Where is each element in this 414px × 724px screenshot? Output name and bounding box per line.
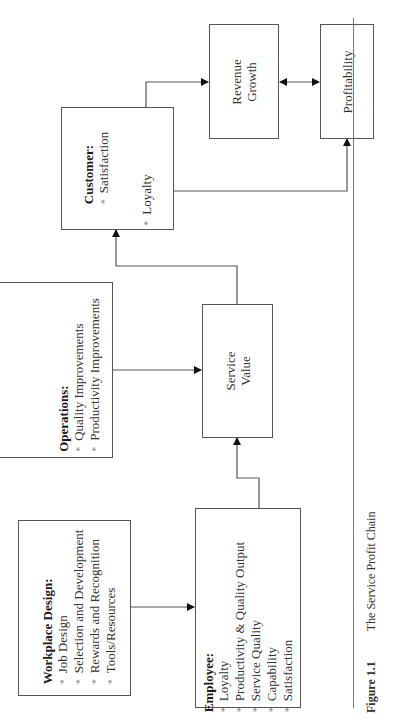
service-value-box: Service Value [202,304,273,438]
customer-item-satisfaction: *Satisfaction [96,132,112,204]
figure-caption: Figure 1.1The Service Profit Chain [364,512,379,713]
operations-item: *Quality Improvements [71,298,87,452]
employee-item: *Satisfaction [280,542,296,712]
revenue-growth-box: Revenue Growth [209,24,279,139]
operations-title: Operations: [56,298,71,452]
service-value-label: Service Value [223,352,253,391]
arrow-loyalty-to-profitability [158,139,347,191]
figure-title: The Service Profit Chain [364,512,378,632]
workplace-item: *Selection and Development [71,530,87,685]
employee-item: *Loyalty [216,542,232,712]
profitability-box: Profitability [320,24,374,139]
employee-item: *Capability [264,542,280,712]
workplace-title: Workplace Design: [40,530,55,685]
employee-item: *Service Quality [248,542,264,712]
workplace-design-block: Workplace Design: *Job Design *Selection… [40,530,119,685]
customer-box: Customer: *Satisfaction *Loyalty [61,107,174,230]
workplace-item: *Job Design [55,530,71,685]
employee-item: *Productivity & Quality Output [232,542,248,712]
operations-item: *Productivity Improvements [87,298,103,452]
operations-block: Operations: *Quality Improvements *Produ… [56,298,103,452]
workplace-design-box: Workplace Design: *Job Design *Selection… [18,520,131,696]
employee-block: Employee: *Loyalty *Productivity & Quali… [201,542,296,712]
workplace-item: *Rewards and Recognition [87,530,103,685]
operations-box: Operations: *Quality Improvements *Produ… [0,282,113,458]
figure-number: Figure 1.1 [364,661,378,713]
revenue-growth-label: Revenue Growth [229,59,259,104]
caption-rule [353,18,354,708]
arrow-employee-to-service-value [237,438,259,508]
customer-title: Customer: [81,132,96,204]
customer-block: Customer: *Satisfaction [81,132,112,204]
workplace-item: *Tools/Resources [103,530,119,685]
employee-title: Employee: [201,542,216,712]
employee-box: Employee: *Loyalty *Productivity & Quali… [195,508,301,708]
arrow-service-value-to-customer [116,230,237,304]
customer-item-loyalty: *Loyalty [139,174,155,225]
service-profit-chain-figure: Revenue Growth Profitability Customer: *… [0,0,414,724]
